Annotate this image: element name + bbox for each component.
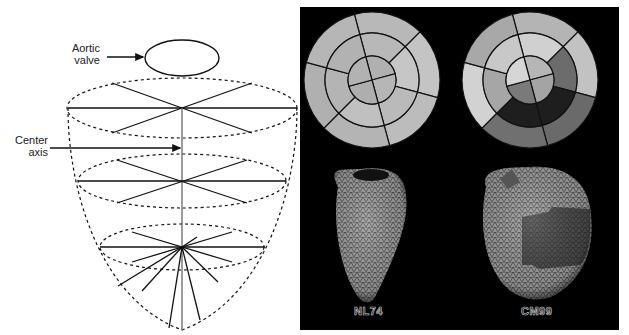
results-graphics: [300, 7, 619, 330]
center-axis-label: Center axis: [8, 134, 48, 158]
aortic-valve-label: Aortic valve: [70, 42, 100, 66]
center-axis-label-line2: axis: [8, 146, 48, 158]
heart-mesh-nl74: [334, 168, 406, 302]
bullseye-plot-cm99: [462, 12, 598, 148]
lv-geometry-diagram: Aortic valve Center axis: [0, 0, 300, 335]
bullseye-plot-nl74: [304, 12, 440, 148]
aortic-valve-ellipse: [145, 40, 219, 76]
caption-cm99: CM99: [521, 305, 552, 317]
heart-mesh-cm99: [483, 167, 592, 300]
results-panel: NL74 CM99: [300, 7, 619, 330]
caption-nl74: NL74: [354, 305, 383, 317]
center-axis-label-line1: Center: [8, 134, 48, 146]
aortic-valve-label-line1: Aortic: [70, 42, 100, 54]
aortic-valve-label-line2: valve: [70, 54, 100, 66]
lv-schematic: [0, 0, 300, 335]
